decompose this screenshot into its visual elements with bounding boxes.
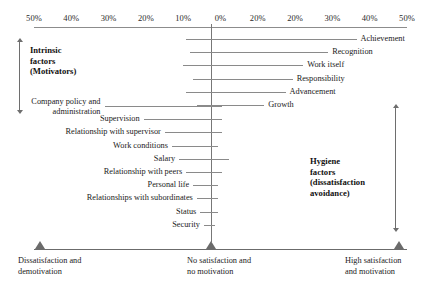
hygiene-range-arrow xyxy=(392,104,399,232)
bar-motivator-3 xyxy=(193,79,292,80)
axis-tick-2: 30% xyxy=(101,13,117,23)
axis-tick-0: 50% xyxy=(26,13,42,23)
bar-label-motivator-3: Responsibility xyxy=(297,74,345,84)
continuum-marker-center xyxy=(206,241,216,249)
axis-tick-7: 20% xyxy=(287,13,303,23)
bar-label-hygiene-1: Supervision xyxy=(100,114,140,124)
bar-label-motivator-1: Recognition xyxy=(332,47,373,57)
bar-label-motivator-5: Growth xyxy=(268,100,293,110)
bar-label-motivator-0: Achievement xyxy=(361,34,405,44)
arrow-head-down-icon xyxy=(17,110,23,114)
bar-label-hygiene-3: Work conditions xyxy=(113,141,168,151)
axis-tick-10: 50% xyxy=(399,13,415,23)
bar-label-hygiene-6: Personal life xyxy=(148,180,190,190)
continuum-label-right: High satisfaction and motivation xyxy=(345,256,401,277)
axis-tick-8: 30% xyxy=(324,13,340,23)
bar-label-hygiene-2: Relationship with supervisor xyxy=(65,127,160,137)
bar-label-hygiene-8: Status xyxy=(176,207,196,217)
bar-motivator-2 xyxy=(183,65,304,66)
herzberg-two-factor-chart: 50%40%30%20%10%0%20%20%30%40%50% Achieve… xyxy=(0,0,424,287)
axis-tick-3: 20% xyxy=(138,13,154,23)
continuum-marker-left xyxy=(35,241,45,249)
axis-tick-9: 40% xyxy=(362,13,378,23)
bar-hygiene-8 xyxy=(200,212,218,213)
hygiene-caption: Hygiene factors (dissatisfaction avoidan… xyxy=(310,156,365,198)
continuum-label-center: No satisfaction and no motivation xyxy=(187,256,251,277)
bar-hygiene-7 xyxy=(197,198,218,199)
motivators-range-arrow xyxy=(16,38,23,114)
bar-label-hygiene-5: Relationship with peers xyxy=(104,167,182,177)
arrow-head-down-icon xyxy=(393,228,399,232)
bar-hygiene-4 xyxy=(179,159,229,160)
bar-label-hygiene-7: Relationships with subordinates xyxy=(87,193,193,203)
bar-motivator-1 xyxy=(190,52,328,53)
arrow-stem xyxy=(395,108,396,228)
axis-tick-4: 10% xyxy=(175,13,191,23)
arrow-stem xyxy=(19,42,20,110)
bar-hygiene-9 xyxy=(204,225,215,226)
bar-label-motivator-4: Advancement xyxy=(290,87,336,97)
continuum-label-left: Dissatisfaction and demotivation xyxy=(18,256,81,277)
bar-motivator-0 xyxy=(186,39,356,40)
bar-hygiene-5 xyxy=(186,172,222,173)
continuum-line xyxy=(34,249,407,250)
bar-hygiene-2 xyxy=(165,132,222,133)
bar-label-hygiene-9: Security xyxy=(172,220,200,230)
bar-hygiene-6 xyxy=(193,185,218,186)
bar-hygiene-1 xyxy=(144,119,222,120)
continuum-marker-right xyxy=(394,241,404,249)
bar-hygiene-0 xyxy=(105,106,222,107)
bar-label-hygiene-4: Salary xyxy=(154,154,175,164)
bar-motivator-4 xyxy=(186,92,285,93)
axis-tick-6: 20% xyxy=(250,13,266,23)
bar-hygiene-3 xyxy=(172,146,218,147)
axis-tick-1: 40% xyxy=(63,13,79,23)
bar-label-motivator-2: Work itself xyxy=(307,60,344,70)
axis-tick-5: 0% xyxy=(215,13,227,23)
motivators-caption: Intrinsic factors (Motivators) xyxy=(30,45,76,77)
bar-label-hygiene-0: Company policy and administration xyxy=(15,97,101,116)
top-axis-line xyxy=(34,27,407,28)
